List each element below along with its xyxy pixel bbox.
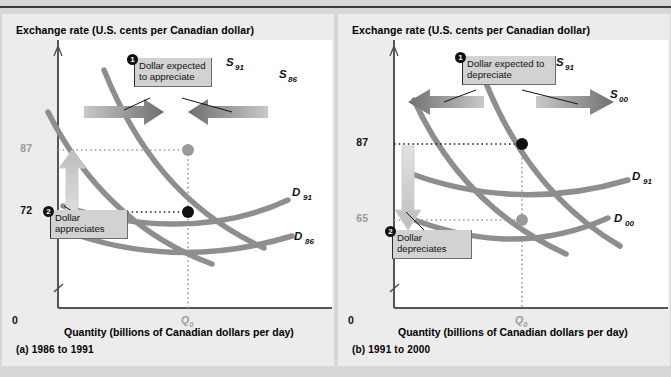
- panel-a-ytick-87: 87: [0, 142, 32, 154]
- panel-a-label-S86-sub: 86: [288, 75, 297, 84]
- panel-b-x-axis-title: Quantity (billions of Canadian dollars p…: [398, 326, 628, 338]
- panel-a-label-S91: S: [226, 56, 234, 68]
- panel-a-label-D91-sub: 91: [303, 193, 312, 202]
- panel-b-ytick-65: 65: [334, 212, 368, 224]
- panel-a-ytick-72: 72: [0, 204, 32, 216]
- panel-a-label-S91-sub: 91: [235, 63, 244, 72]
- panel-b-label-D00-sub: 00: [625, 219, 634, 228]
- panel-b-ytick-87: 87: [334, 136, 368, 148]
- panel-a-origin-label: 0: [12, 314, 18, 326]
- panel-b-label-S00-sub: 00: [619, 95, 628, 104]
- top-rule: [0, 6, 671, 8]
- panel-b-label-D91-sub: 91: [643, 177, 652, 186]
- panel-a-callout-1-badge: 1: [127, 54, 138, 65]
- panel-a-y-axis-title: Exchange rate (U.S. cents per Canadian d…: [16, 24, 254, 36]
- panel-b-label-S91-sub: 91: [565, 63, 574, 72]
- panel-a-callout-2: Dollar appreciates: [50, 210, 128, 239]
- panel-b-callout-1: Dollar expected to depreciate: [462, 56, 556, 85]
- panel-a-equilibrium-new: [182, 144, 194, 156]
- panel-b: Exchange rate (U.S. cents per Canadian d…: [338, 14, 670, 366]
- panel-a-caption: (a) 1986 to 1991: [16, 344, 94, 355]
- panel-b-equilibrium-old: [516, 138, 528, 150]
- panel-b-equilibrium-new: [516, 214, 528, 226]
- panel-a-label-D86-sub: 86: [305, 237, 314, 246]
- panel-a: Exchange rate (U.S. cents per Canadian d…: [2, 14, 334, 366]
- panel-b-label-D00: D: [614, 212, 622, 224]
- panel-a-label-D91: D: [292, 186, 300, 198]
- panel-a-x-axis-title: Quantity (billions of Canadian dollars p…: [64, 326, 294, 338]
- panel-a-label-D86: D: [294, 230, 302, 242]
- panel-b-callout-1-badge: 1: [455, 52, 466, 63]
- panel-b-callout-2: Dollar depreciates: [392, 230, 472, 259]
- panel-b-callout-2-badge: 2: [385, 226, 396, 237]
- panel-b-origin-label: 0: [348, 314, 354, 326]
- panel-b-label-S00: S: [610, 88, 618, 100]
- panel-a-callout-2-badge: 2: [43, 206, 54, 217]
- panel-a-equilibrium-old: [182, 206, 194, 218]
- panel-a-label-S86: S: [279, 68, 287, 80]
- panel-b-label-S91: S: [556, 56, 564, 68]
- panel-b-label-D91: D: [632, 170, 640, 182]
- panel-a-callout-1: Dollar expected to appreciate: [134, 58, 212, 87]
- panel-b-caption: (b) 1991 to 2000: [352, 344, 430, 355]
- panel-b-y-axis-title: Exchange rate (U.S. cents per Canadian d…: [352, 24, 590, 36]
- figure-container: Exchange rate (U.S. cents per Canadian d…: [0, 0, 671, 377]
